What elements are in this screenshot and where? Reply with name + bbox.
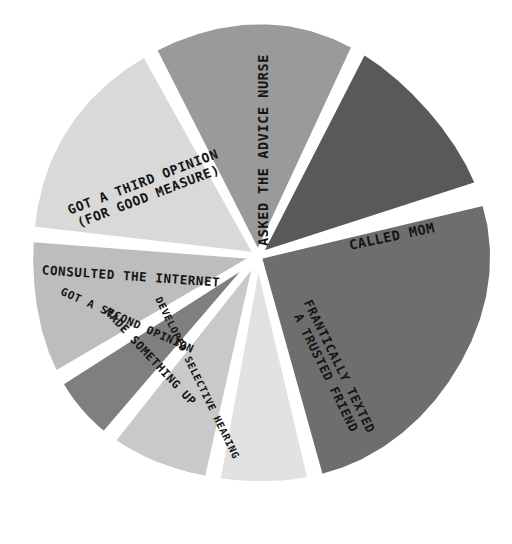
- pie-slice-label-asked-the-advice-nurse: ASKED THE ADVICE NURSE: [255, 54, 271, 246]
- pie-chart-canvas: ASKED THE ADVICE NURSECALLED MOMFRANTICA…: [0, 0, 512, 544]
- pie-slice-label-line: ASKED THE ADVICE NURSE: [255, 54, 271, 246]
- pie-chart-figure: ASKED THE ADVICE NURSECALLED MOMFRANTICA…: [0, 0, 512, 544]
